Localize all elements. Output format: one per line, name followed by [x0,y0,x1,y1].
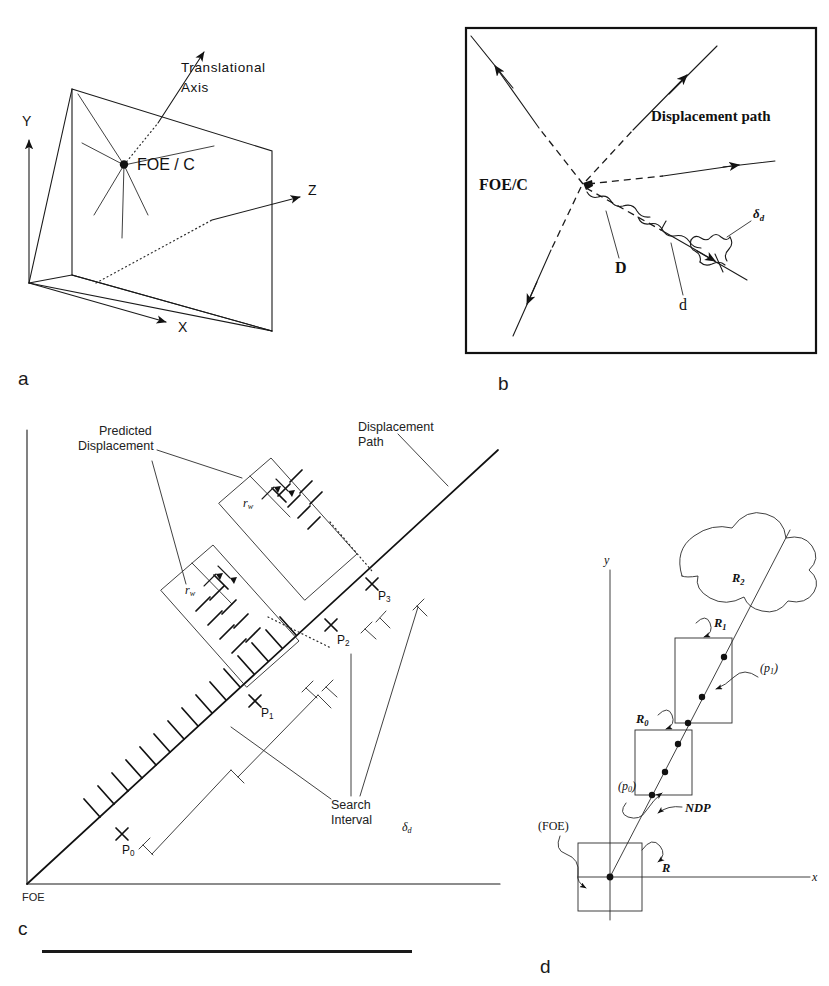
ray-right [588,161,775,184]
z-axis [96,197,300,283]
predicted-displacement-leaders [152,450,242,584]
panel-b: Displacement path FOE/C D d δd b [455,18,829,366]
brace-d [638,217,701,295]
z-axis-label: Z [308,182,317,198]
point-P3-marker [366,578,378,590]
panel-c: rw [0,404,500,964]
region-R-label: R [661,861,670,875]
region-R1-box [675,638,732,723]
panel-a-graphic: Translational Axis FOE / C Y X Z [0,0,440,360]
panel-c-letter: c [18,918,28,940]
ndp-label: NDP [684,801,711,815]
ndp-sample-points [649,654,727,798]
ray-upper-left [471,36,583,184]
x-axis [29,283,166,322]
ndp-line [610,530,790,877]
pointer-R [642,842,663,862]
figure-container: Translational Axis FOE / C Y X Z a [0,0,829,986]
distance-D-label: D [615,259,627,276]
image-plane [72,89,272,331]
foe-label-c: FOE [22,891,45,903]
foe-label-d: (FOE) [538,819,569,833]
point-P0-label: P0 [122,843,135,858]
prediction-window-1: rw [161,545,299,687]
region-R1-label: R1 [713,616,727,632]
panel-d-graphic: y x [490,520,829,940]
axes-d [578,570,810,920]
panel-d-letter: d [540,956,551,978]
point-p1-label: (p1) [760,661,778,676]
panel-b-graphic: Displacement path FOE/C D d δd [455,18,829,366]
predicted-displacement-label-line1: Predicted [99,424,152,438]
foe-c-label-b: FOE/C [479,176,528,193]
foe-point-d [607,874,614,881]
panel-a-letter: a [18,368,29,390]
leader-dotted-2 [330,522,372,571]
search-interval-leaders [231,607,418,799]
region-R0-label: R0 [635,712,649,728]
displacement-path-label-line1: Displacement [358,420,434,434]
predicted-displacement-label-line2: Displacement [78,439,154,453]
y-axis-label: Y [22,113,32,129]
search-interval-label-line1: Search [331,798,371,812]
panel-c-bottom-rule [42,950,412,953]
ray-lower-left [513,187,581,336]
point-P2-label: P2 [337,633,350,648]
displacement-path-label-line2: Path [358,435,384,449]
window-1-hatching [196,586,260,653]
panel-b-letter: b [498,373,509,395]
point-p0-label: (p0) [618,779,636,794]
pointer-FOE [558,836,586,888]
point-P1-marker [249,695,261,707]
pointer-p1 [716,672,758,689]
x-axis-label-d: x [811,870,818,884]
panel-d: y x [490,520,829,940]
r-w-label-2: rw [243,496,254,511]
path-tick-b [661,221,666,230]
y-axis-label-d: y [603,553,610,567]
translational-axis-label-line2: Axis [181,80,209,95]
brace-D [587,192,650,258]
panel-a: Translational Axis FOE / C Y X Z a [0,0,440,360]
region-R0-box [635,730,692,795]
pointer-R0 [658,710,673,729]
displacement-path-label-b: Displacement path [651,108,771,124]
r-w-label-1: rw [185,583,196,598]
foe-point-marker [120,160,128,168]
x-axis-label: X [178,319,188,335]
pointer-R1 [696,618,711,637]
region-R2-label: R2 [731,571,745,587]
search-interval-brackets [139,599,427,855]
point-P1-label: P1 [261,706,274,721]
point-P2-marker [325,619,337,631]
pointer-NDP [658,807,682,813]
point-P0-marker [116,828,128,840]
displacement-path-line-c [27,450,498,884]
search-interval-label-line2: Interval [331,813,372,827]
region-R2-blob [680,513,817,612]
panel-c-graphic: rw [0,404,500,964]
search-interval-symbol: δd [402,820,413,835]
base-frame-edges [29,89,272,331]
delta-d-label-b: δd [753,206,765,223]
foe-c-label: FOE / C [137,156,195,173]
distance-d-label: d [679,296,687,313]
translational-axis-label-line1: Translational [181,60,266,75]
displacement-path-leader [398,434,448,486]
point-P3-label: P3 [378,589,391,604]
